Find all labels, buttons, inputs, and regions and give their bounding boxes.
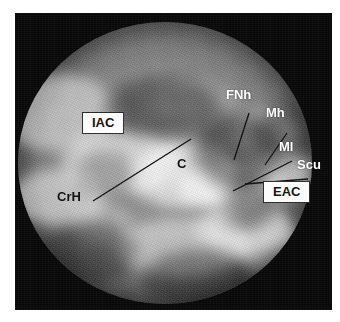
- label-crh: CrH: [57, 190, 81, 203]
- fnh-leader-line: [234, 113, 249, 160]
- label-scu: Scu: [297, 158, 321, 171]
- label-mh: Mh: [266, 106, 285, 119]
- label-c: C: [177, 157, 186, 170]
- film-frame: IAC EAC FNh Mh Ml Scu CrH C: [15, 13, 332, 310]
- annotation-overlay: IAC EAC FNh Mh Ml Scu CrH C: [15, 13, 332, 310]
- label-ml: Ml: [279, 140, 293, 153]
- leader-line-group: [15, 13, 332, 310]
- label-iac: IAC: [82, 112, 124, 134]
- label-eac: EAC: [263, 181, 310, 203]
- figure-page: IAC EAC FNh Mh Ml Scu CrH C: [0, 0, 340, 322]
- label-fnh: FNh: [226, 88, 251, 101]
